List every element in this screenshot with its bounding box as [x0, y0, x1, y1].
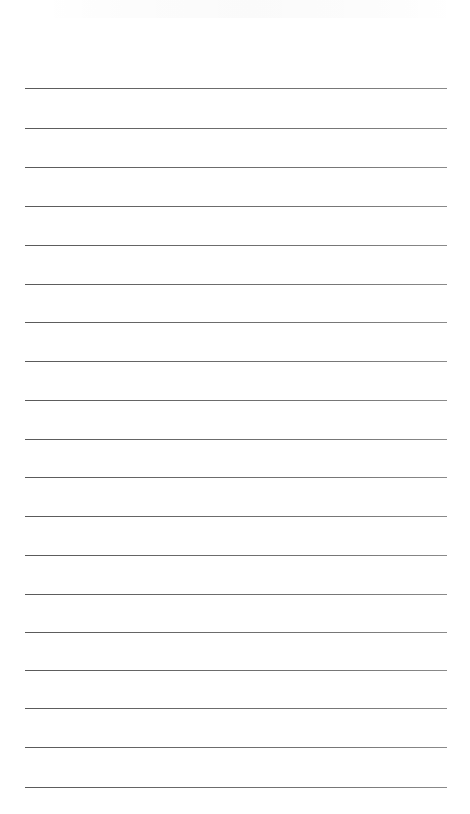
writing-line[interactable] — [25, 322, 447, 323]
writing-line[interactable] — [25, 747, 447, 748]
writing-line[interactable] — [25, 516, 447, 517]
writing-line[interactable] — [25, 555, 447, 556]
writing-line[interactable] — [25, 245, 447, 246]
writing-line[interactable] — [25, 708, 447, 709]
writing-line[interactable] — [25, 477, 447, 478]
writing-line[interactable] — [25, 400, 447, 401]
writing-line[interactable] — [25, 88, 447, 89]
writing-line[interactable] — [25, 594, 447, 595]
lined-paper-sheet — [0, 0, 470, 814]
writing-line[interactable] — [25, 670, 447, 671]
writing-line[interactable] — [25, 439, 447, 440]
writing-line[interactable] — [25, 206, 447, 207]
writing-line[interactable] — [25, 361, 447, 362]
writing-line[interactable] — [25, 787, 447, 788]
writing-line[interactable] — [25, 284, 447, 285]
writing-line[interactable] — [25, 167, 447, 168]
ruled-lines-container — [0, 0, 470, 814]
writing-line[interactable] — [25, 632, 447, 633]
writing-line[interactable] — [25, 128, 447, 129]
